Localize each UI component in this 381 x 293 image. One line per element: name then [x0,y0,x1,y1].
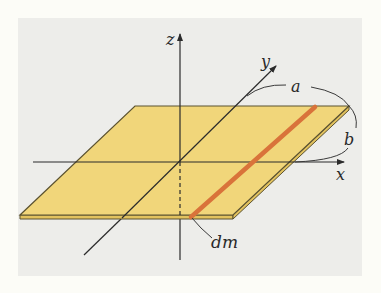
plate-diagram: z y x a b dm [0,0,381,293]
dimension-a-label: a [291,77,301,96]
mass-element-label: dm [211,232,238,252]
z-axis-label: z [165,30,175,49]
dimension-b-label: b [344,130,354,149]
y-axis-label: y [260,52,271,71]
x-axis-label: x [336,165,345,184]
